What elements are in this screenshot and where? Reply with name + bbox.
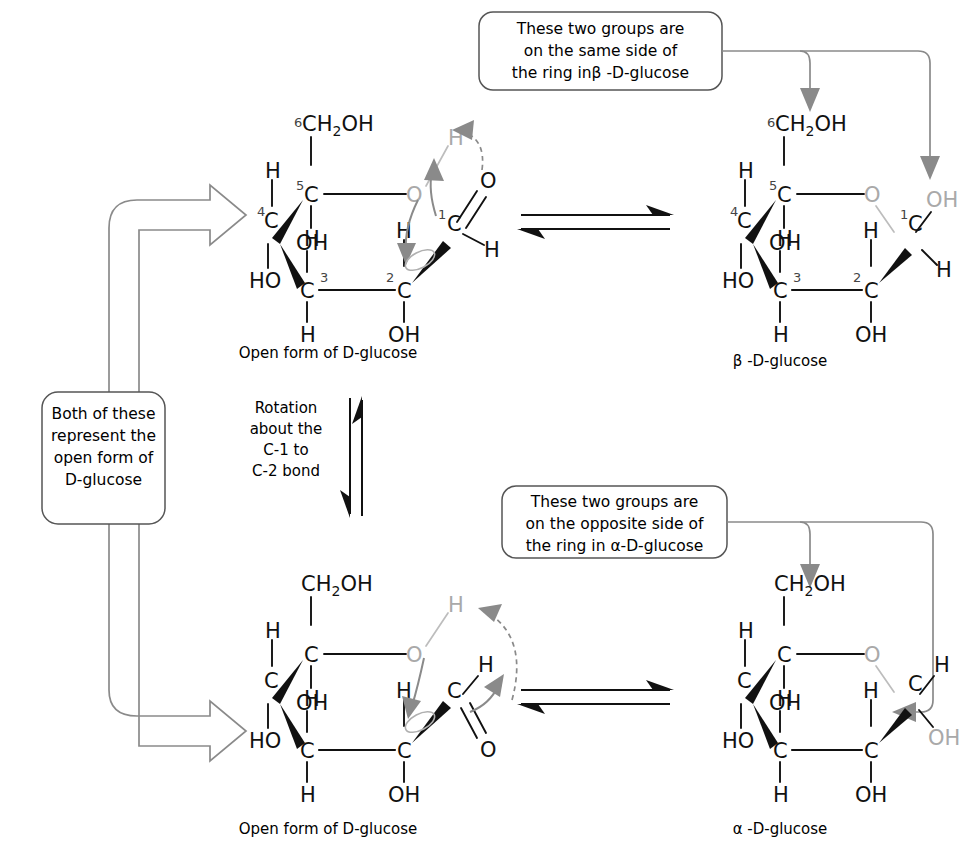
locant-1: 1 bbox=[438, 207, 446, 222]
locant-3: 3 bbox=[320, 270, 328, 285]
atom-c3-oh: OH bbox=[296, 691, 328, 715]
atom-c2-h: H bbox=[863, 679, 879, 703]
caption-top-right: β -D-glucose bbox=[690, 352, 870, 370]
atom-c4-ho: HO bbox=[249, 269, 281, 293]
open-form-callout-line-3: open form of bbox=[42, 447, 165, 469]
atom-c4-h: H bbox=[265, 619, 281, 643]
locant-3: 3 bbox=[793, 270, 801, 285]
atom-c1-h: H bbox=[484, 238, 500, 262]
atom-c3: C bbox=[300, 739, 315, 763]
atom-c1-oh: OH bbox=[928, 726, 960, 750]
equilibrium-arrow-top bbox=[517, 205, 674, 239]
rotation-note-line-1: Rotation bbox=[232, 398, 340, 419]
atom-c2: C bbox=[864, 739, 879, 763]
atom-c1: C bbox=[447, 212, 462, 236]
atom-c1: C bbox=[447, 679, 462, 703]
locant-2: 2 bbox=[853, 270, 861, 285]
atom-hydroxyl-h: H bbox=[448, 593, 464, 617]
atom-ring-o: O bbox=[406, 643, 423, 667]
rotation-note-line-4: C-2 bond bbox=[232, 461, 340, 482]
equilibrium-arrow-bottom bbox=[517, 680, 674, 714]
alpha-callout-line-2: on the opposite side of bbox=[502, 513, 727, 535]
atom-c4-h: H bbox=[738, 619, 754, 643]
atom-c4-ho: HO bbox=[722, 729, 754, 753]
atom-c2-oh: OH bbox=[855, 323, 887, 347]
rotation-note-line-3: C-1 to bbox=[232, 440, 340, 461]
beta-callout-text: These two groups are on the same side of… bbox=[479, 18, 722, 84]
atom-c3: C bbox=[773, 739, 788, 763]
atom-c3: C bbox=[300, 279, 315, 303]
atom-c1: C bbox=[908, 672, 923, 696]
caption-bottom-left: Open form of D-glucose bbox=[218, 820, 438, 838]
open-form-callout-line-2: represent the bbox=[42, 425, 165, 447]
atom-c1-h: H bbox=[478, 653, 494, 677]
atom-c2: C bbox=[397, 739, 412, 763]
atom-ring-o: O bbox=[406, 183, 423, 207]
atom-c3-oh: OH bbox=[769, 231, 801, 255]
atom-c2-h: H bbox=[863, 219, 879, 243]
atom-c4-h: H bbox=[738, 159, 754, 183]
atom-c1-h: H bbox=[936, 258, 952, 282]
rotation-note-line-2: about the bbox=[232, 419, 340, 440]
atom-c5: C bbox=[304, 643, 319, 667]
atom-c2: C bbox=[397, 279, 412, 303]
atom-c5: C bbox=[304, 183, 319, 207]
atom-c3-h: H bbox=[300, 783, 316, 807]
beta-callout-line-1: These two groups are bbox=[479, 18, 722, 40]
atom-c4: C bbox=[737, 669, 752, 693]
structure-beta-d-glucose: 6 CH2OH 5 C H O H 4 C HO OH 3 C H H 2 C … bbox=[722, 112, 958, 347]
atom-c6: CH2OH bbox=[775, 112, 847, 139]
rotation-note: Rotation about the C-1 to C-2 bond bbox=[232, 398, 340, 482]
alpha-callout-text: These two groups are on the opposite sid… bbox=[502, 491, 727, 557]
structure-open-form-top: 6 CH2OH 5 C H O H H 4 C HO OH 3 C H H 2 … bbox=[249, 112, 500, 347]
atom-c2-oh: OH bbox=[388, 783, 420, 807]
beta-callout-line-2: on the same side of bbox=[479, 40, 722, 62]
atom-c4-ho: HO bbox=[722, 269, 754, 293]
atom-c6: CH2OH bbox=[302, 112, 374, 139]
locant-2: 2 bbox=[386, 270, 394, 285]
beta-callout-line-3: the ring inβ -D-glucose bbox=[479, 62, 722, 84]
atom-c2-oh: OH bbox=[855, 783, 887, 807]
atom-c6: CH2OH bbox=[301, 572, 373, 599]
atom-ring-o: O bbox=[864, 183, 881, 207]
open-form-callout-text: Both of these represent the open form of… bbox=[42, 403, 165, 491]
atom-carbonyl-o: O bbox=[480, 738, 497, 762]
atom-c3: C bbox=[773, 279, 788, 303]
atom-c5: C bbox=[777, 183, 792, 207]
atom-c1: C bbox=[908, 212, 923, 236]
atom-c4: C bbox=[737, 209, 752, 233]
atom-c4: C bbox=[264, 209, 279, 233]
atom-c3-oh: OH bbox=[769, 691, 801, 715]
atom-c2: C bbox=[864, 279, 879, 303]
caption-bottom-right: α -D-glucose bbox=[690, 820, 870, 838]
open-form-callout-line-1: Both of these bbox=[42, 403, 165, 425]
gray-block-arrow-bottom bbox=[109, 522, 246, 761]
atom-c4: C bbox=[264, 669, 279, 693]
atom-c5: C bbox=[777, 643, 792, 667]
atom-c1-h: H bbox=[934, 653, 950, 677]
atom-carbonyl-o: O bbox=[480, 169, 497, 193]
atom-c3-h: H bbox=[773, 323, 789, 347]
alpha-callout-line-1: These two groups are bbox=[502, 491, 727, 513]
structure-alpha-d-glucose: CH2OH C H O H C HO OH C H H C OH C H OH bbox=[722, 572, 960, 807]
caption-top-left: Open form of D-glucose bbox=[218, 344, 438, 362]
structure-open-form-bottom: CH2OH C H O H H C HO OH C H H C OH C H O bbox=[249, 572, 517, 807]
atom-c3-oh: OH bbox=[296, 231, 328, 255]
rotation-equilibrium-arrow bbox=[340, 396, 362, 518]
atom-ring-o: O bbox=[864, 643, 881, 667]
atom-c4-h: H bbox=[265, 159, 281, 183]
atom-c1-oh: OH bbox=[926, 188, 958, 212]
gray-block-arrow-top bbox=[109, 185, 246, 418]
figure-canvas: 6 CH2OH 5 C H O H H 4 C HO OH 3 C H H 2 … bbox=[0, 0, 978, 857]
atom-c3-h: H bbox=[773, 783, 789, 807]
open-form-callout-line-4: D-glucose bbox=[42, 469, 165, 491]
atom-c4-ho: HO bbox=[249, 729, 281, 753]
alpha-callout-line-3: the ring in α-D-glucose bbox=[502, 535, 727, 557]
